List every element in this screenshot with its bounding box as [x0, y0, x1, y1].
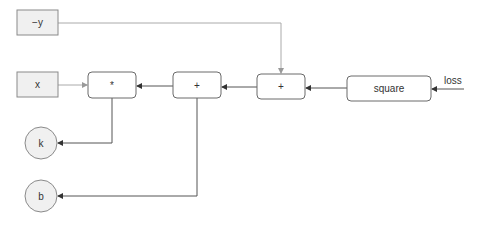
node-square-label: square — [374, 83, 405, 94]
edges — [58, 23, 464, 196]
node-add1[interactable]: + — [173, 72, 221, 98]
node-add2[interactable]: + — [257, 74, 305, 99]
node-b-label: b — [38, 191, 44, 202]
computation-graph: −y x * + + square loss k b — [0, 0, 477, 225]
node-add2-label: + — [278, 81, 284, 92]
node-neg-y[interactable]: −y — [17, 10, 58, 35]
node-k[interactable]: k — [25, 127, 57, 159]
node-b[interactable]: b — [25, 180, 57, 212]
node-square[interactable]: square — [347, 76, 431, 101]
edge-add1-to-b — [58, 98, 197, 196]
edge-negy-to-add2 — [58, 23, 281, 73]
node-add1-label: + — [194, 80, 200, 91]
node-mul[interactable]: * — [88, 72, 136, 98]
node-mul-label: * — [110, 80, 114, 91]
loss-label: loss — [444, 75, 462, 86]
edge-mul-to-k — [58, 98, 112, 143]
node-x[interactable]: x — [17, 72, 58, 97]
node-x-label: x — [35, 79, 40, 90]
node-neg-y-label: −y — [32, 17, 43, 28]
